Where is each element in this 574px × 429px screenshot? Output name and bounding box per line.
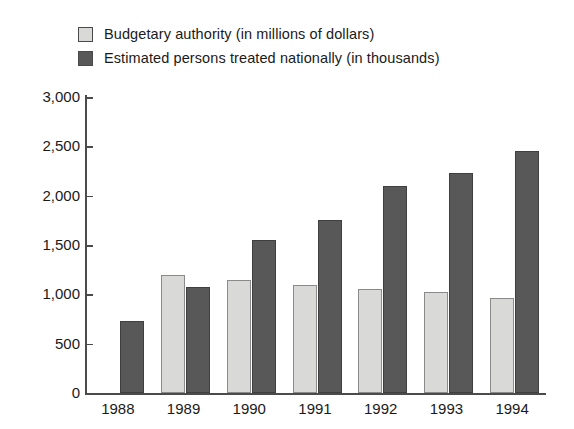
y-axis-tick-label: 2,000 (6, 188, 80, 203)
y-axis-tick-label: 500 (6, 336, 80, 351)
y-axis-tick-label: 0 (6, 385, 80, 400)
y-axis-tick-label: 2,500 (6, 138, 80, 153)
bar (161, 275, 185, 393)
bar (252, 240, 276, 393)
y-axis-tick-label: 1,000 (6, 286, 80, 301)
bar (186, 287, 210, 393)
bar (120, 321, 144, 393)
legend-item-persons-treated: Estimated persons treated nationally (in… (78, 46, 518, 70)
legend-item-budgetary-authority: Budgetary authority (in millions of doll… (78, 22, 518, 46)
bar (293, 285, 317, 393)
bar (358, 289, 382, 393)
x-axis-tick-label: 1989 (151, 400, 217, 417)
bar (515, 151, 539, 393)
x-axis-tick-label: 1990 (216, 400, 282, 417)
x-axis-tick-label: 1994 (479, 400, 545, 417)
bar (449, 173, 473, 393)
bar-chart: Budgetary authority (in millions of doll… (0, 0, 574, 429)
x-axis-tick-label: 1988 (85, 400, 151, 417)
x-axis-tick-label: 1992 (348, 400, 414, 417)
legend-swatch-light-icon (78, 27, 93, 42)
x-axis-tick-label: 1993 (414, 400, 480, 417)
bar (318, 220, 342, 393)
bar (383, 186, 407, 393)
y-axis-tick-label: 1,500 (6, 237, 80, 252)
x-axis-line (85, 393, 546, 395)
legend-swatch-dark-icon (78, 51, 93, 66)
y-axis-tick (85, 393, 93, 395)
legend-label-budgetary-authority: Budgetary authority (in millions of doll… (104, 26, 374, 42)
bar (490, 298, 514, 393)
legend-label-persons-treated: Estimated persons treated nationally (in… (104, 50, 440, 66)
bar (424, 292, 448, 393)
x-axis-tick-label: 1991 (282, 400, 348, 417)
chart-legend: Budgetary authority (in millions of doll… (78, 22, 518, 70)
plot-area (85, 97, 545, 393)
y-axis-tick-label: 3,000 (6, 89, 80, 104)
bar (227, 280, 251, 393)
